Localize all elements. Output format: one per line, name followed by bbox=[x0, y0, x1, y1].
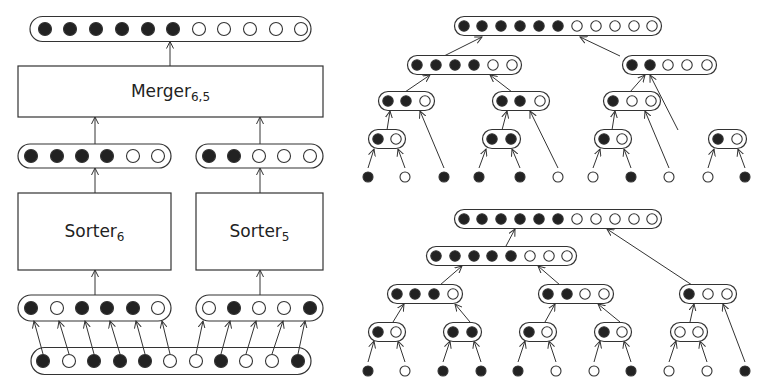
arrow bbox=[420, 111, 444, 168]
filled-dot bbox=[203, 150, 216, 163]
filled-dot bbox=[401, 96, 411, 106]
empty-dot bbox=[629, 21, 639, 31]
leaf-filled-dot bbox=[515, 172, 525, 182]
arrow bbox=[444, 37, 482, 56]
filled-dot bbox=[496, 214, 506, 224]
filled-dot bbox=[448, 327, 458, 337]
filled-dot bbox=[469, 251, 479, 261]
split-right-array bbox=[196, 295, 323, 321]
tree-bottom-node-lla bbox=[369, 323, 406, 342]
empty-dot bbox=[164, 355, 177, 368]
empty-dot bbox=[420, 96, 430, 106]
empty-dot bbox=[127, 150, 140, 163]
empty-dot bbox=[304, 150, 317, 163]
arrow bbox=[538, 266, 560, 285]
empty-dot bbox=[702, 60, 712, 70]
empty-dot bbox=[703, 289, 713, 299]
filled-dot bbox=[599, 134, 609, 144]
filled-dot bbox=[450, 251, 460, 261]
tree-bottom-node-ra bbox=[671, 323, 708, 342]
filled-dot bbox=[373, 327, 383, 337]
filled-dot bbox=[142, 23, 155, 36]
filled-dot bbox=[139, 355, 152, 368]
empty-dot bbox=[190, 355, 203, 368]
leaf-empty-dot bbox=[553, 172, 563, 182]
tree-bottom-node-lrb bbox=[595, 323, 632, 342]
tree-bottom-node-lra bbox=[520, 323, 557, 342]
filled-dot bbox=[506, 134, 516, 144]
leaf-empty-dot bbox=[702, 366, 712, 376]
filled-dot bbox=[487, 251, 497, 261]
leaf-filled-dot bbox=[363, 172, 373, 182]
filled-dot bbox=[101, 302, 114, 315]
arrow bbox=[607, 229, 692, 285]
filled-dot bbox=[383, 96, 393, 106]
sorter-right-label-text: Sorter bbox=[230, 220, 282, 240]
arrow bbox=[393, 304, 404, 322]
empty-dot bbox=[278, 302, 291, 315]
empty-dot bbox=[203, 302, 216, 315]
arrow bbox=[598, 304, 620, 322]
empty-dot bbox=[599, 289, 609, 299]
empty-dot bbox=[525, 251, 535, 261]
leaf-filled-dot bbox=[740, 366, 750, 376]
empty-dot bbox=[675, 327, 685, 337]
sorter-right-label-subscript: 5 bbox=[282, 229, 290, 243]
arrow bbox=[518, 341, 525, 362]
filled-dot bbox=[25, 302, 38, 315]
filled-dot bbox=[90, 23, 103, 36]
filled-dot bbox=[515, 21, 525, 31]
empty-dot bbox=[544, 251, 554, 261]
filled-dot bbox=[76, 302, 89, 315]
empty-dot bbox=[722, 289, 732, 299]
pill-outline bbox=[18, 144, 171, 168]
merger-label: Merger6,5 bbox=[131, 80, 210, 103]
filled-dot bbox=[599, 327, 609, 337]
filled-dot bbox=[37, 355, 50, 368]
empty-dot bbox=[580, 289, 590, 299]
filled-dot bbox=[215, 355, 228, 368]
empty-dot bbox=[218, 23, 231, 36]
filled-dot bbox=[101, 150, 114, 163]
filled-dot bbox=[292, 355, 305, 368]
tree-top-node-r bbox=[623, 56, 717, 75]
empty-dot bbox=[562, 251, 572, 261]
leaf-empty-dot bbox=[703, 172, 713, 182]
empty-dot bbox=[591, 214, 601, 224]
filled-dot bbox=[431, 60, 441, 70]
tree-top-node-rl bbox=[604, 92, 661, 111]
arrow bbox=[502, 111, 507, 130]
leaf-filled-dot bbox=[626, 366, 636, 376]
empty-dot bbox=[270, 23, 283, 36]
tree-top-node-rla bbox=[595, 130, 632, 149]
arrow bbox=[630, 75, 645, 92]
empty-dot bbox=[63, 355, 76, 368]
filled-dot bbox=[467, 327, 477, 337]
merger-label-subscript: 6,5 bbox=[191, 89, 210, 103]
filled-dot bbox=[627, 60, 637, 70]
arrow bbox=[594, 341, 600, 362]
empty-dot bbox=[152, 150, 165, 163]
leaf-empty-dot bbox=[400, 172, 410, 182]
arrow bbox=[624, 149, 631, 168]
filled-dot bbox=[459, 214, 469, 224]
empty-dot bbox=[253, 150, 266, 163]
filled-dot bbox=[167, 23, 180, 36]
arrow bbox=[368, 341, 374, 362]
filled-dot bbox=[116, 23, 129, 36]
filled-dot bbox=[515, 214, 525, 224]
filled-dot bbox=[114, 355, 127, 368]
filled-dot bbox=[553, 21, 563, 31]
filled-dot bbox=[373, 134, 383, 144]
filled-dot bbox=[608, 96, 618, 106]
pill-outline bbox=[408, 56, 522, 75]
filled-dot bbox=[459, 21, 469, 31]
leaf-filled-dot bbox=[439, 172, 449, 182]
filled-dot bbox=[713, 134, 723, 144]
arrow bbox=[708, 149, 714, 168]
filled-dot bbox=[76, 150, 89, 163]
arrow bbox=[624, 341, 631, 362]
empty-dot bbox=[610, 214, 620, 224]
merge-sort-block-diagram bbox=[18, 17, 323, 375]
sorter-right-label: Sorter5 bbox=[230, 220, 290, 243]
